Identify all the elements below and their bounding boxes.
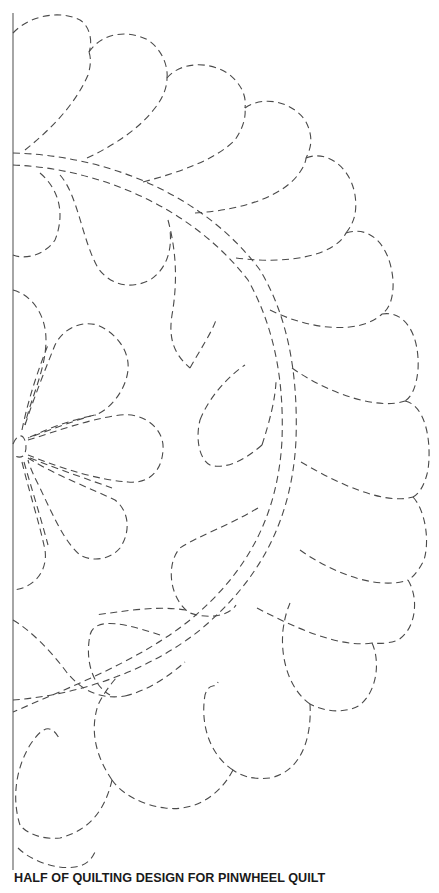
double-arc-spine	[13, 153, 296, 712]
outer-feather-scallops	[13, 15, 429, 868]
document-caption: HALF OF QUILTING DESIGN FOR PINWHEEL QUI…	[14, 871, 325, 885]
inner-feather-plumes	[13, 173, 276, 697]
quilting-pattern-drawing	[0, 0, 439, 870]
document-page: HALF OF QUILTING DESIGN FOR PINWHEEL QUI…	[0, 0, 439, 893]
center-flower-petals	[13, 290, 163, 590]
